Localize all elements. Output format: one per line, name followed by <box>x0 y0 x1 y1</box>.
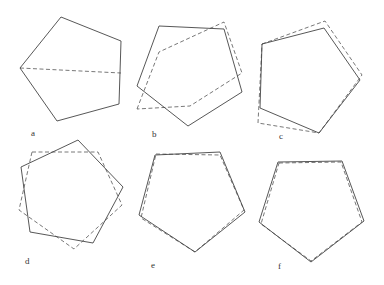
dashed-pentagon <box>258 21 362 133</box>
panel-b: b <box>137 22 242 139</box>
panel-label: a <box>31 128 35 138</box>
solid-pentagon <box>139 152 245 252</box>
solid-pentagon <box>260 28 360 133</box>
pentagon-overlay-figure: abcdef <box>0 0 384 285</box>
panel-label: f <box>278 261 281 271</box>
panel-label: c <box>279 131 283 141</box>
dashed-pentagon <box>141 154 244 252</box>
panel-e: e <box>139 152 245 270</box>
dashed-pentagon <box>261 162 362 261</box>
dashed-pentagon <box>137 22 242 109</box>
panel-d: d <box>19 140 123 266</box>
panel-f: f <box>259 161 364 271</box>
dashed-pentagon <box>19 152 122 249</box>
panel-label: d <box>25 256 30 266</box>
dashed-line <box>20 68 121 73</box>
panel-a: a <box>20 17 121 138</box>
panel-label: b <box>152 129 157 139</box>
panel-c: c <box>258 21 362 141</box>
solid-pentagon <box>137 26 242 126</box>
solid-pentagon <box>21 140 123 243</box>
panel-label: e <box>151 260 155 270</box>
